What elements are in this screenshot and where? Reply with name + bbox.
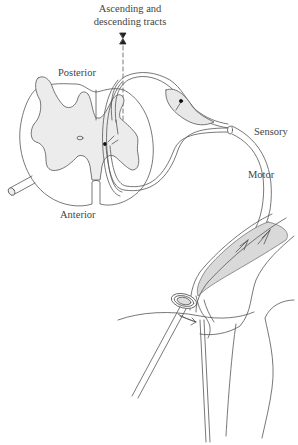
- calf-outline: [262, 300, 294, 438]
- quadriceps-muscle: [197, 222, 287, 296]
- ventral-root-stub-left: [7, 176, 35, 196]
- shin-back: [226, 324, 236, 436]
- double-arrow-icon: [120, 33, 126, 44]
- reflex-arc-diagram: Ascending and descending tracts Posterio…: [0, 0, 298, 445]
- motor-cell-body: [103, 142, 106, 145]
- reflex-hammer-icon: [132, 291, 198, 398]
- gray-matter: [31, 77, 139, 180]
- spinal-nerve-junction: [228, 126, 233, 134]
- dorsal-root-ganglion: [166, 89, 214, 125]
- ganglion-cell-body: [179, 99, 182, 102]
- knee-surface-line: [118, 312, 254, 320]
- diagram-canvas: [0, 0, 298, 445]
- tap-arrow-icon: [180, 316, 196, 325]
